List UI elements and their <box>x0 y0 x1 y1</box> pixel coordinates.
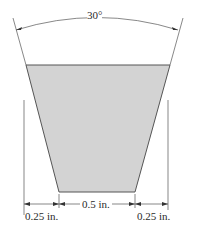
dim-arrow-2 <box>53 202 59 206</box>
right-offset-label: 0.25 in. <box>137 210 170 222</box>
bottom-width-label: 0.5 in. <box>80 198 112 210</box>
right-angle-extension-line <box>170 18 183 65</box>
dim-arrow-1 <box>24 202 30 206</box>
left-offset-label: 0.25 in. <box>25 210 58 222</box>
angle-label: 30° <box>87 9 102 21</box>
v-belt-cross-section-diagram: 30° 0.5 in. 0.25 in. 0.25 in. <box>0 0 197 235</box>
left-angle-extension-line <box>13 18 26 65</box>
dim-arrow-3 <box>59 202 65 206</box>
trapezoid-shape <box>26 65 170 192</box>
dim-arrow-6 <box>162 202 168 206</box>
dim-arrow-5 <box>135 202 141 206</box>
dim-arrow-4 <box>129 202 135 206</box>
